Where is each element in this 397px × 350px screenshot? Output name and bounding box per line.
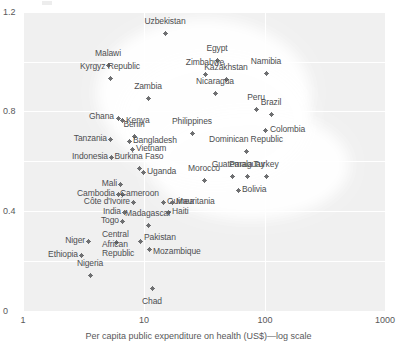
data-point-label: Philippines (172, 117, 212, 127)
data-point-label: Zambia (134, 82, 162, 92)
x-tick-label-1000: 1000 (375, 315, 395, 325)
y-tick-label-0: 0 (3, 306, 8, 316)
top-crop-mark (42, 1, 52, 5)
data-point-label: Mozambique (153, 247, 201, 257)
gridline-vertical-1 (144, 12, 145, 311)
data-point-label: Niger (65, 236, 85, 246)
data-point-label: Ethiopia (48, 250, 78, 260)
data-point-label: Bolivia (242, 185, 266, 195)
y-tick-label-1.2: 1.2 (3, 7, 16, 17)
data-point-label: Tanzania (74, 134, 107, 144)
data-point-label: Benin (123, 120, 144, 130)
data-point-label: Indonesia (72, 152, 108, 162)
gridline-horizontal-1 (23, 111, 385, 112)
data-point-label: Haiti (172, 207, 189, 217)
data-point-label: Ghana (89, 112, 114, 122)
data-point-label: Uganda (147, 167, 176, 177)
x-tick-label-10: 10 (139, 315, 149, 325)
gridline-horizontal-2 (23, 211, 385, 212)
data-point-label: Pakistan (144, 233, 176, 243)
gridline-vertical-3 (385, 12, 386, 311)
gridline-vertical-0 (23, 12, 24, 311)
data-point-label: Nigeria (77, 259, 103, 269)
data-point-label: Namibia (251, 57, 281, 67)
y-tick-label-0.8: 0.8 (3, 106, 16, 116)
data-point-label: Egypt (206, 44, 227, 54)
data-point-label: Uzbekistan (144, 17, 185, 27)
x-tick-label-1: 1 (20, 315, 25, 325)
data-point-label: Central African Republic (102, 230, 134, 259)
data-point-label: Kazakhstan (204, 63, 247, 73)
data-point-label: Togo (101, 216, 119, 226)
data-point-label: Burkina Faso (115, 152, 164, 162)
data-point-label: Dominican Republic (209, 135, 283, 145)
data-point-label: Madagascar (125, 209, 171, 219)
gridline-horizontal-0 (23, 12, 385, 13)
data-point-label: Nicaragua (196, 77, 234, 87)
data-point-label: Malawi (95, 49, 121, 59)
y-tick-label-0.4: 0.4 (3, 206, 16, 216)
data-point-label: Morocco (188, 164, 220, 174)
data-point-label: Chad (142, 297, 162, 307)
scatter-chart-figure: 1.20.80.40 1101001000 UzbekistanEgyptNam… (0, 0, 397, 350)
gridline-horizontal-3 (23, 311, 385, 312)
x-axis-title: Per capita public expenditure on health … (0, 331, 397, 341)
data-point-label: Kyrgyz Republic (80, 62, 140, 72)
x-tick-label-100: 100 (257, 315, 272, 325)
data-point-label: Turkey (253, 160, 278, 170)
data-point-label: Brazil (261, 98, 282, 108)
